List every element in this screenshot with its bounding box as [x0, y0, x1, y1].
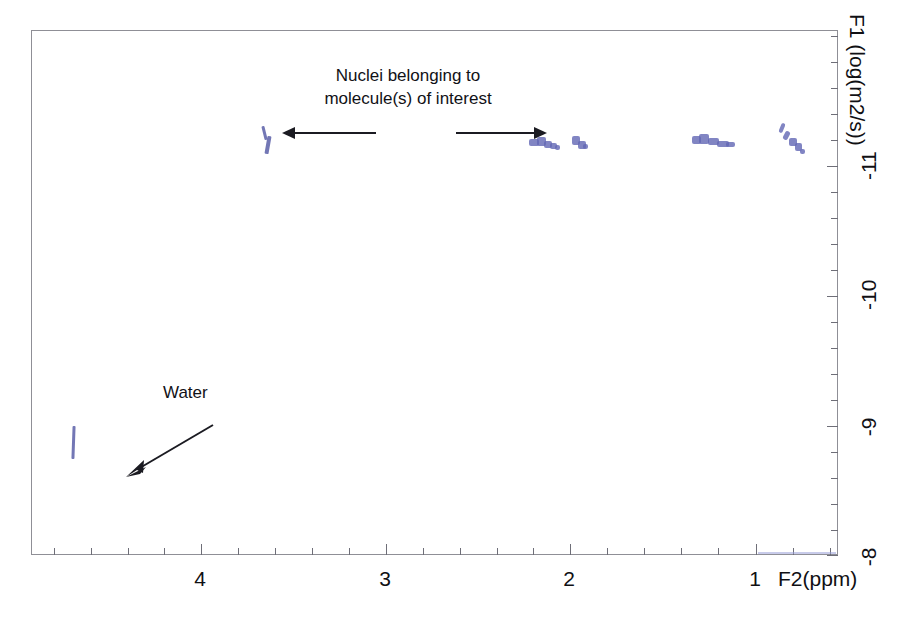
peak-cluster	[800, 149, 805, 154]
x-tick-minor	[54, 548, 55, 555]
peak-cluster	[583, 144, 588, 149]
y-tick-minor	[831, 530, 838, 531]
y-tick-minor	[831, 400, 838, 401]
x-tick-minor	[533, 548, 534, 555]
x-tick-major	[386, 544, 387, 555]
nuclei-arrow-right-line	[456, 132, 534, 134]
peak-water	[71, 426, 75, 459]
x-tick-label: 1	[735, 567, 775, 591]
y-axis-title: F1 (log(m2/s))	[845, 14, 869, 146]
y-tick-minor	[831, 374, 838, 375]
y-tick-label: -10	[857, 284, 881, 310]
y-tick-minor	[831, 62, 838, 63]
x-tick-minor	[644, 548, 645, 555]
peak-cluster	[726, 142, 735, 147]
dosy-spectrum-figure: Nuclei belonging to molecule(s) of inter…	[0, 0, 911, 626]
y-tick-major	[827, 166, 838, 167]
water-annotation: Water	[163, 383, 208, 403]
y-tick-minor	[831, 244, 838, 245]
x-tick-minor	[681, 548, 682, 555]
nuclei-annotation-line1: Nuclei belonging to	[283, 64, 533, 87]
y-tick-minor	[831, 452, 838, 453]
y-tick-label: -9	[857, 414, 881, 440]
baseline-artifact	[758, 552, 836, 554]
water-arrow	[110, 419, 220, 489]
y-tick-minor	[831, 348, 838, 349]
y-tick-major	[827, 296, 838, 297]
y-tick-minor	[831, 36, 838, 37]
nuclei-annotation-line2: molecule(s) of interest	[283, 87, 533, 110]
nuclei-arrow-left-head	[282, 127, 295, 139]
y-tick-minor	[831, 270, 838, 271]
nuclei-arrow-right-head	[534, 127, 547, 139]
x-tick-minor	[607, 548, 608, 555]
y-tick-minor	[831, 322, 838, 323]
x-tick-major	[570, 544, 571, 555]
y-tick-label: -11	[857, 154, 881, 180]
y-tick-minor	[831, 140, 838, 141]
x-tick-minor	[275, 548, 276, 555]
y-tick-minor	[831, 478, 838, 479]
x-tick-minor	[718, 548, 719, 555]
x-tick-label: 2	[549, 567, 589, 591]
x-tick-minor	[238, 548, 239, 555]
x-axis-title: F2(ppm)	[778, 567, 857, 591]
x-tick-minor	[349, 548, 350, 555]
y-tick-minor	[831, 88, 838, 89]
y-tick-minor	[831, 192, 838, 193]
y-tick-minor	[831, 218, 838, 219]
x-tick-major	[201, 544, 202, 555]
x-tick-minor	[497, 548, 498, 555]
x-tick-minor	[460, 548, 461, 555]
y-tick-label: -8	[857, 544, 881, 570]
x-tick-label: 4	[180, 567, 220, 591]
nuclei-arrow-left-line	[294, 132, 376, 134]
y-tick-major	[827, 426, 838, 427]
nuclei-annotation: Nuclei belonging to molecule(s) of inter…	[283, 64, 533, 110]
x-tick-minor	[164, 548, 165, 555]
x-tick-minor	[91, 548, 92, 555]
y-tick-minor	[831, 504, 838, 505]
x-tick-minor	[128, 548, 129, 555]
x-tick-minor	[312, 548, 313, 555]
x-tick-major	[756, 544, 757, 555]
peak-cluster	[555, 145, 560, 150]
y-tick-minor	[831, 114, 838, 115]
x-tick-minor	[423, 548, 424, 555]
x-tick-label: 3	[365, 567, 405, 591]
y-tick-major	[827, 555, 838, 556]
